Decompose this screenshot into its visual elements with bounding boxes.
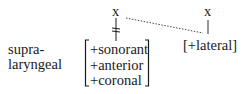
feature-coronal: +coronal — [90, 72, 142, 88]
left-x-node: x — [112, 3, 119, 19]
matrix-left-bracket — [86, 40, 90, 86]
right-x-node: x — [204, 3, 211, 19]
feature-anterior: +anterior — [90, 57, 143, 73]
delink-mark-lower — [112, 31, 120, 32]
feature-sonorant: +sonorant — [90, 41, 148, 57]
tier-label-line1: supra- — [8, 41, 44, 57]
spreading-dotted-line — [126, 18, 203, 33]
delink-mark-upper — [112, 28, 120, 29]
feature-lateral: [+lateral] — [183, 37, 237, 53]
tier-label-line2: laryngeal — [8, 56, 62, 72]
